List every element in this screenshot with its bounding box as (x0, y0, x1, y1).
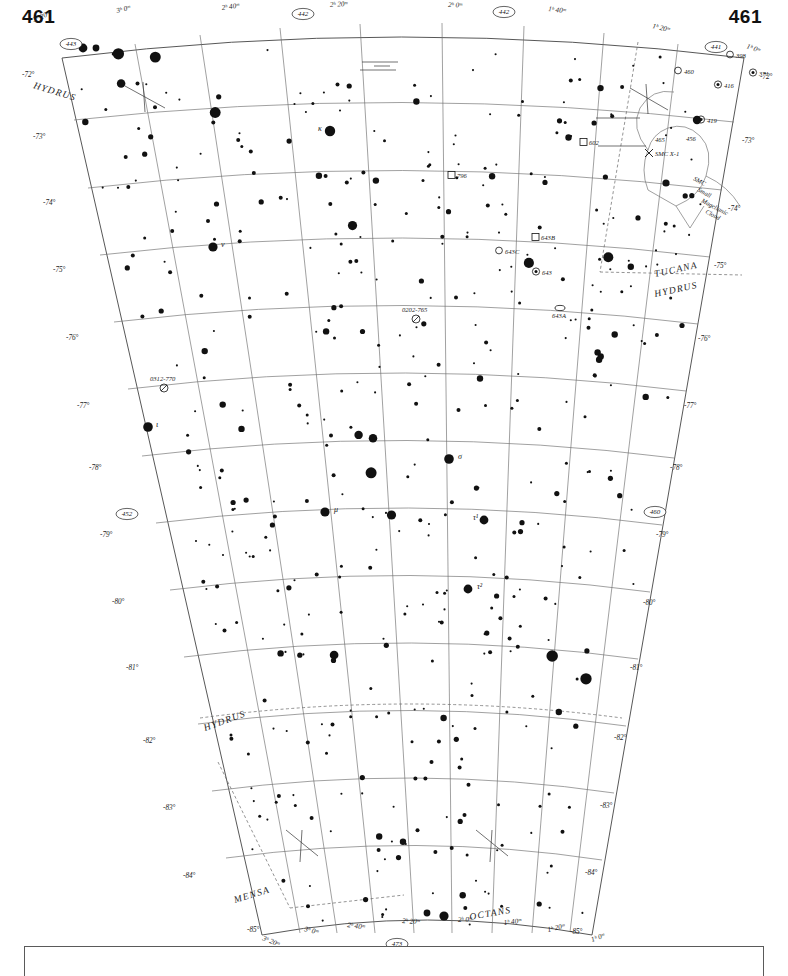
star-point (443, 592, 446, 595)
dso-marker[interactable]: 796 (448, 172, 468, 179)
star-point (426, 438, 429, 441)
adjacent-chart-left[interactable]: 452 (116, 508, 138, 519)
dso-marker[interactable]: 0202-765 (402, 306, 428, 324)
dec-labels-right: -72°-73°-74°-75°-76°-77°-78°-79°-80°-81°… (570, 73, 773, 936)
star-point (286, 198, 288, 200)
dso-marker[interactable]: 643 (532, 268, 552, 276)
star-point (505, 711, 508, 714)
adjacent-chart-badges[interactable]: 443442442441452460473 (60, 6, 727, 949)
star-point (104, 108, 107, 111)
star-point (360, 775, 365, 780)
star-point (316, 173, 322, 179)
star-point (238, 426, 244, 432)
star-point (242, 409, 244, 411)
star-point-bright (480, 516, 489, 525)
dec-tick-label: -74° (728, 205, 741, 213)
star-point (140, 315, 144, 319)
star-point (321, 723, 323, 725)
dso-marker[interactable]: 643A (552, 305, 567, 319)
star-point-bright (464, 585, 473, 594)
star-point (230, 734, 233, 737)
star-point (235, 621, 238, 624)
star-point (421, 321, 426, 326)
star-point (584, 648, 589, 653)
greek-star-label: ι (156, 420, 158, 429)
star-point (324, 174, 328, 178)
star-point (372, 516, 374, 518)
star-point (338, 272, 340, 274)
deep-sky-objects[interactable]: 460398371416419465456SMC X-1602796643B64… (150, 51, 769, 392)
adjacent-chart-top-right[interactable]: 441 (705, 41, 727, 52)
star-point (361, 171, 365, 175)
star-point (508, 637, 512, 641)
star-point (446, 209, 451, 214)
adjacent-chart-top-left[interactable]: 443 (60, 38, 82, 49)
star-point (283, 624, 285, 626)
star-point (348, 260, 352, 264)
star-point (305, 111, 307, 113)
star-point (438, 196, 440, 198)
star-point (360, 271, 362, 273)
dso-label: 0312-770 (150, 375, 176, 382)
greek-star-label: σ (458, 452, 463, 461)
star-point (292, 794, 294, 796)
star-point (362, 507, 365, 510)
star-point (612, 217, 614, 219)
star-point (175, 211, 177, 213)
star-point (113, 48, 124, 59)
star-point (498, 616, 502, 620)
dso-marker[interactable]: 643C (496, 247, 520, 254)
star-point (339, 304, 343, 308)
star-point (330, 830, 332, 832)
star-point (391, 240, 394, 243)
star-point (437, 740, 441, 744)
chart-boundary (62, 37, 744, 935)
nebula-core-icon (700, 118, 703, 121)
dso-marker[interactable]: 456 (686, 135, 697, 142)
star-point (200, 153, 202, 155)
star-point (689, 193, 694, 198)
star-point (489, 113, 491, 115)
dso-marker[interactable]: 602 (580, 139, 600, 146)
star-point (530, 481, 532, 483)
dso-marker[interactable]: 460 (675, 67, 695, 74)
dso-marker[interactable]: 416 (714, 81, 734, 89)
dso-marker[interactable]: 465 (655, 136, 666, 143)
star-point (195, 540, 197, 542)
star-point (556, 709, 562, 715)
star-point (463, 906, 467, 910)
ra-tick-label: 2ʰ 40ᵐ (221, 1, 241, 12)
star-point (530, 172, 533, 175)
star-point (531, 695, 534, 698)
dso-label: 643B (541, 234, 555, 241)
adjacent-chart-right[interactable]: 460 (644, 506, 666, 517)
star-point (539, 805, 542, 808)
dso-marker[interactable]: 398 (727, 51, 747, 58)
star-point (340, 243, 343, 246)
dso-marker[interactable]: 643B (532, 234, 555, 241)
star-point (306, 741, 310, 745)
star-point (142, 152, 147, 157)
star-point (513, 595, 516, 598)
star-point (203, 376, 206, 379)
dso-label: 460 (684, 68, 695, 75)
star-point (206, 219, 210, 223)
adjacent-chart-top-mid-right[interactable]: 442 (493, 6, 515, 17)
star-point (655, 249, 657, 251)
greek-star-label: μ (333, 505, 338, 514)
dso-marker[interactable]: SMC X-1 (645, 149, 679, 157)
star-point (240, 145, 243, 148)
star-point (81, 88, 83, 90)
star-point (466, 232, 468, 234)
star-point (287, 139, 292, 144)
star-point (656, 264, 658, 266)
star-point (384, 858, 386, 860)
star-point (297, 403, 301, 407)
star-point (510, 407, 513, 410)
star-point (300, 633, 303, 636)
star-point (286, 585, 291, 590)
dso-marker[interactable]: 0312-770 (150, 375, 176, 393)
adjacent-chart-top-mid-left[interactable]: 442 (292, 8, 314, 19)
star-point (590, 309, 593, 312)
